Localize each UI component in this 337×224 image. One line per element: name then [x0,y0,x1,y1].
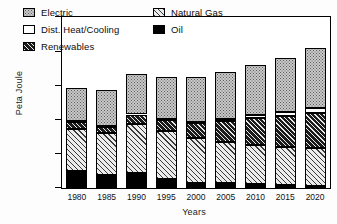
bar-segment-natural-gas-1995[interactable] [156,131,177,179]
legend-swatch-oil-icon [153,25,165,34]
legend-swatch-renewables-icon [23,42,35,51]
bar-segment-renewables-2000[interactable] [186,123,207,138]
bar-segment-renewables-2005[interactable] [215,121,236,142]
bar-segment-oil-2000[interactable] [186,183,207,188]
legend-label: Dist. Heat/Cooling [41,24,119,35]
bar-segment-electric-2020[interactable] [305,48,326,108]
stacked-bar-1995[interactable] [156,77,177,188]
bar-segment-renewables-1995[interactable] [156,120,177,131]
bar-segment-oil-1990[interactable] [126,173,147,188]
legend-item-natural-gas[interactable]: Natural Gas [153,6,223,18]
legend-item-renewables[interactable]: Renewables [23,40,94,52]
stacked-bar-2010[interactable] [245,65,266,188]
bar-segment-oil-1985[interactable] [96,175,117,188]
legend-item-dist-heat-cooling[interactable]: Dist. Heat/Cooling [23,23,119,35]
legend-swatch-natural-gas-icon [153,8,165,17]
bar-segment-dist-heat-cooling-2005[interactable] [215,119,236,121]
bar-segment-natural-gas-2005[interactable] [215,142,236,183]
bar-segment-renewables-1990[interactable] [126,115,147,124]
bar-segment-electric-1985[interactable] [96,90,117,126]
bar-segment-renewables-2020[interactable] [305,113,326,148]
bar-segment-oil-2010[interactable] [245,184,266,188]
chart-legend: ElectricNatural GasDist. Heat/CoolingOil… [23,6,253,53]
bar-segment-oil-2020[interactable] [305,186,326,188]
bar-segment-dist-heat-cooling-2020[interactable] [305,108,326,113]
bar-segment-dist-heat-cooling-2010[interactable] [245,115,266,118]
legend-swatch-electric-icon [23,8,35,17]
bar-segment-natural-gas-2020[interactable] [305,148,326,186]
x-axis-title: Years [57,207,331,217]
stacked-bar-2000[interactable] [186,77,207,188]
bar-segment-renewables-1980[interactable] [66,122,87,129]
stacked-bar-2005[interactable] [215,72,236,188]
y-axis-tick [55,187,62,188]
bar-segment-natural-gas-2010[interactable] [245,145,266,184]
bar-segment-oil-2015[interactable] [275,185,296,188]
y-axis-tick [55,153,62,154]
chart-figure: Peta Joule Years 05000100001500020000250… [0,0,337,224]
bar-segment-oil-1995[interactable] [156,179,177,188]
bar-segment-renewables-2015[interactable] [275,116,296,146]
stacked-bar-2020[interactable] [305,48,326,188]
legend-label: Natural Gas [171,7,223,18]
bar-segment-dist-heat-cooling-2015[interactable] [275,112,296,116]
stacked-bar-1985[interactable] [96,90,117,188]
legend-item-oil[interactable]: Oil [153,23,183,35]
bar-segment-natural-gas-2015[interactable] [275,147,296,185]
bar-segment-electric-2015[interactable] [275,58,296,112]
legend-label: Oil [171,24,183,35]
bar-segment-renewables-1985[interactable] [96,127,117,133]
x-axis-tick-label-2020: 2020 [295,192,335,202]
bar-segment-renewables-2010[interactable] [245,118,266,145]
stacked-bar-1980[interactable] [66,88,87,188]
bar-segment-dist-heat-cooling-2000[interactable] [186,121,207,123]
bar-segment-electric-2005[interactable] [215,72,236,119]
stacked-bar-2015[interactable] [275,58,296,188]
bar-segment-oil-1980[interactable] [66,171,87,188]
bar-segment-natural-gas-1985[interactable] [96,133,117,175]
stacked-bar-1990[interactable] [126,74,147,188]
legend-label: Electric [41,7,73,18]
y-axis-title: Peta Joule [14,47,24,139]
bar-segment-electric-2000[interactable] [186,77,207,121]
bar-segment-oil-2005[interactable] [215,183,236,188]
bar-segment-natural-gas-2000[interactable] [186,138,207,183]
bar-segment-electric-1995[interactable] [156,77,177,118]
y-axis-tick [55,85,62,86]
y-axis-tick [55,119,62,120]
bar-segment-electric-1990[interactable] [126,74,147,114]
legend-item-electric[interactable]: Electric [23,6,73,18]
bar-segment-electric-2010[interactable] [245,65,266,115]
bar-segment-natural-gas-1990[interactable] [126,124,147,174]
legend-label: Renewables [41,41,94,52]
bar-segment-natural-gas-1980[interactable] [66,129,87,171]
bar-segment-electric-1980[interactable] [66,88,87,121]
legend-swatch-dist-heat-cooling-icon [23,25,35,34]
